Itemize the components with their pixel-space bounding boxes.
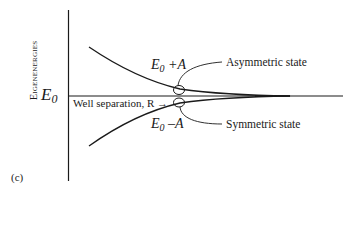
- lower-curve-label: E0 –A: [151, 117, 184, 133]
- symmetric-state-label: Symmetric state: [226, 119, 300, 131]
- symmetric-callout-line: [180, 107, 222, 124]
- panel-label: (c): [11, 172, 23, 183]
- upper-curve-label: E0 +A: [151, 58, 186, 74]
- y-axis-label: Eigenenergies: [28, 41, 39, 100]
- asymmetric-state-label: Asymmetric state: [226, 57, 307, 69]
- baseline-e0-label: E0: [41, 86, 57, 105]
- upper-energy-curve: [89, 47, 290, 96]
- well-separation-label: Well separation, R →: [73, 98, 168, 109]
- right-arrow-icon: →: [157, 97, 168, 109]
